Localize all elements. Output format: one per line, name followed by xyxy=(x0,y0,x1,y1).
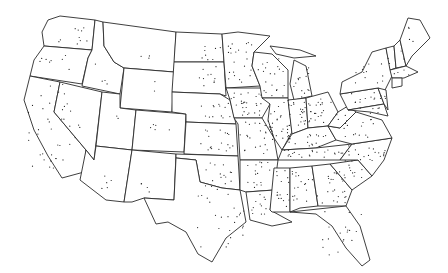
dot-me xyxy=(408,27,409,28)
dot-tn xyxy=(289,154,290,155)
dot-ar xyxy=(259,162,260,163)
dot-ga xyxy=(328,176,329,177)
dot-ky xyxy=(307,142,308,143)
dot-ok xyxy=(230,172,231,173)
dot-tx xyxy=(217,189,218,190)
dot-ky xyxy=(307,136,308,137)
state-wa xyxy=(42,16,95,50)
dot-wa xyxy=(75,28,76,29)
dot-il xyxy=(272,131,273,132)
dot-mo xyxy=(272,139,273,140)
dot-ca xyxy=(49,103,50,104)
dot-ga xyxy=(342,192,343,193)
dot-mn xyxy=(228,52,229,53)
dot-ar xyxy=(254,187,255,188)
dot-ar xyxy=(257,173,258,174)
dot-ok xyxy=(223,164,224,165)
dot-ca xyxy=(64,93,65,94)
dot-ia xyxy=(259,115,260,116)
dot-ne xyxy=(225,107,226,108)
dot-ny xyxy=(381,63,382,64)
dot-va xyxy=(373,123,374,124)
dot-fl xyxy=(347,230,348,231)
dot-ca xyxy=(42,153,43,154)
dot-tn xyxy=(324,151,325,152)
dot-nc xyxy=(358,154,359,155)
dot-la xyxy=(251,209,252,210)
dot-ma xyxy=(394,73,395,74)
dot-or xyxy=(62,59,63,60)
dot-ne xyxy=(221,115,222,116)
dot-ms xyxy=(277,175,278,176)
dot-pa xyxy=(374,99,375,100)
dot-sd xyxy=(214,78,215,79)
dot-pa xyxy=(370,97,371,98)
dot-wi xyxy=(258,69,259,70)
dot-wi xyxy=(276,89,277,90)
dot-mn xyxy=(230,52,231,53)
dot-ks xyxy=(218,149,219,150)
dot-la xyxy=(253,207,254,208)
dot-or xyxy=(46,59,47,60)
dot-ks xyxy=(229,147,230,148)
dot-nc xyxy=(383,154,384,155)
dot-mn xyxy=(244,66,245,67)
dot-ok xyxy=(205,185,206,186)
dot-tx xyxy=(198,195,199,196)
dot-tx xyxy=(243,226,244,227)
dot-oh xyxy=(322,103,323,104)
dot-mi xyxy=(307,89,308,90)
dot-in xyxy=(300,109,301,110)
dot-mn xyxy=(234,75,235,76)
dot-nd xyxy=(207,59,208,60)
dot-ms xyxy=(284,170,285,171)
dot-la xyxy=(259,194,260,195)
dot-in xyxy=(305,107,306,108)
dot-ia xyxy=(246,102,247,103)
dot-in xyxy=(305,120,306,121)
dot-ca xyxy=(64,106,65,107)
dot-ca xyxy=(42,108,43,109)
dot-ca xyxy=(41,95,42,96)
dot-vt xyxy=(389,63,390,64)
dot-tx xyxy=(211,186,212,187)
dot-ky xyxy=(288,138,289,139)
dot-in xyxy=(289,114,290,115)
dot-fl xyxy=(322,239,323,240)
dot-az xyxy=(107,187,108,188)
dot-ne xyxy=(229,116,230,117)
dot-ne xyxy=(219,105,220,106)
dot-al xyxy=(305,183,306,184)
dot-tn xyxy=(288,155,289,156)
dot-la xyxy=(265,199,266,200)
dot-tn xyxy=(312,151,313,152)
dot-ut xyxy=(118,118,119,119)
dot-ia xyxy=(242,115,243,116)
dot-sc xyxy=(352,172,353,173)
dot-ks xyxy=(208,149,209,150)
dot-ky xyxy=(310,135,311,136)
dot-ok xyxy=(231,181,232,182)
dot-oh xyxy=(320,104,321,105)
dot-la xyxy=(255,201,256,202)
dot-ga xyxy=(333,179,334,180)
dot-il xyxy=(269,126,270,127)
dot-la xyxy=(260,203,261,204)
dot-mo xyxy=(264,138,265,139)
dot-ga xyxy=(337,201,338,202)
dot-ms xyxy=(280,194,281,195)
dot-oh xyxy=(320,98,321,99)
us-dot-distribution-map xyxy=(0,0,448,273)
dot-wa xyxy=(58,41,59,42)
state-in xyxy=(288,98,308,134)
dot-ia xyxy=(243,102,244,103)
dot-nc xyxy=(373,148,374,149)
dot-la xyxy=(261,205,262,206)
dot-ca xyxy=(37,134,38,135)
dot-mo xyxy=(244,150,245,151)
dot-ia xyxy=(233,97,234,98)
dot-oh xyxy=(323,122,324,123)
dot-nc xyxy=(384,150,385,151)
dot-al xyxy=(294,195,295,196)
dot-mi xyxy=(293,86,294,87)
